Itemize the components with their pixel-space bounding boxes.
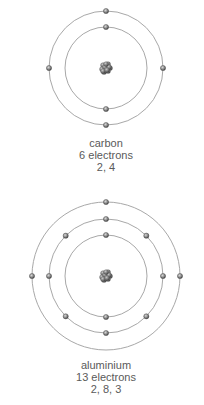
electron-icon <box>103 330 108 335</box>
nucleus-icon <box>99 61 112 74</box>
element-name: aluminium <box>0 359 204 371</box>
electron-icon <box>160 273 165 278</box>
carbon-atom <box>46 8 165 127</box>
aluminium-atom <box>29 199 182 350</box>
electron-icon <box>63 314 68 319</box>
aluminium-label: aluminium 13 electrons 2, 8, 3 <box>0 359 204 395</box>
electron-icon <box>103 216 108 221</box>
electron-icon <box>29 273 34 278</box>
electron-icon <box>103 106 108 111</box>
electron-icon <box>160 65 165 70</box>
electron-icon <box>46 65 51 70</box>
electron-icon <box>177 273 182 278</box>
electron-configuration: 2, 4 <box>0 161 204 173</box>
nucleus-icon <box>99 269 112 282</box>
electron-count: 6 electrons <box>0 149 204 161</box>
electron-configuration-diagram: carbon 6 electrons 2, 4 aluminium 13 ele… <box>0 0 204 405</box>
electron-count: 13 electrons <box>0 371 204 383</box>
electron-icon <box>103 8 108 13</box>
electron-icon <box>103 314 108 319</box>
electron-icon <box>144 314 149 319</box>
element-name: carbon <box>0 137 204 149</box>
carbon-label: carbon 6 electrons 2, 4 <box>0 137 204 173</box>
electron-configuration: 2, 8, 3 <box>0 383 204 395</box>
electron-icon <box>144 233 149 238</box>
electron-icon <box>103 24 108 29</box>
electron-icon <box>46 273 51 278</box>
electron-icon <box>103 199 108 204</box>
electron-icon <box>63 233 68 238</box>
electron-icon <box>103 122 108 127</box>
atom-diagrams-canvas <box>0 0 204 405</box>
electron-icon <box>103 232 108 237</box>
